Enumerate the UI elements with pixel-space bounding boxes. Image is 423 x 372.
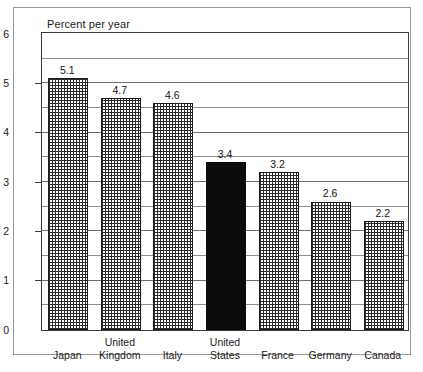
bar-united-states bbox=[206, 162, 246, 330]
y-axis-tick-label: 3 bbox=[0, 176, 9, 188]
gridline bbox=[42, 107, 408, 108]
bar-france bbox=[259, 172, 299, 330]
bar-value-label: 5.1 bbox=[39, 64, 95, 76]
y-axis-tick-mark bbox=[35, 132, 41, 133]
bar-japan bbox=[48, 78, 88, 330]
bar-canada bbox=[364, 221, 404, 330]
gridline bbox=[42, 58, 408, 59]
plot-inner bbox=[42, 33, 408, 330]
bar-value-label: 2.2 bbox=[355, 207, 411, 219]
y-axis-tick-label: 0 bbox=[0, 324, 9, 336]
y-axis-tick-label: 4 bbox=[0, 126, 9, 138]
bar-united-kingdom bbox=[101, 98, 141, 330]
y-axis-tick-label: 1 bbox=[0, 274, 9, 286]
bar-value-label: 2.6 bbox=[302, 187, 358, 199]
x-axis-category-label-line: United bbox=[193, 336, 257, 349]
gridline bbox=[42, 132, 408, 133]
plot-area bbox=[41, 32, 409, 331]
x-axis-category-label-line: Canada bbox=[351, 349, 415, 362]
y-axis-tick-mark bbox=[35, 182, 41, 183]
bar-value-label: 3.4 bbox=[197, 148, 253, 160]
chart-title: Percent per year bbox=[47, 18, 130, 30]
bar-value-label: 4.6 bbox=[144, 89, 200, 101]
figure-container: Percent per year 01234565.1Japan4.7Unite… bbox=[13, 7, 411, 355]
x-axis-category-label: Canada bbox=[351, 349, 415, 362]
y-axis-tick-mark bbox=[35, 231, 41, 232]
y-axis-tick-label: 2 bbox=[0, 225, 9, 237]
y-axis-tick-label: 5 bbox=[0, 77, 9, 89]
bar-germany bbox=[311, 202, 351, 330]
bar-value-label: 3.2 bbox=[250, 158, 306, 170]
bar-italy bbox=[153, 103, 193, 330]
y-axis-tick-mark bbox=[35, 280, 41, 281]
y-axis-tick-mark bbox=[35, 83, 41, 84]
y-axis-tick-label: 6 bbox=[0, 28, 9, 40]
bar-value-label: 4.7 bbox=[92, 84, 148, 96]
x-axis-category-label-line: United bbox=[88, 336, 152, 349]
